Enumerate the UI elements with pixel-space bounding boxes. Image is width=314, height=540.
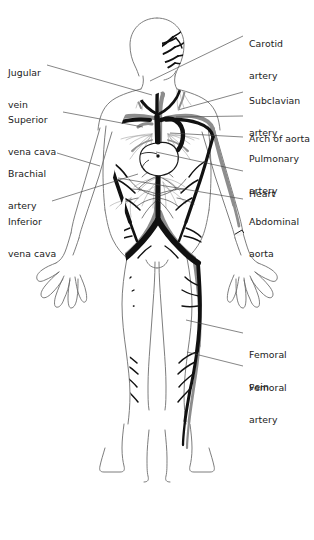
- label-line-2: vena cava: [8, 249, 56, 260]
- veins-group: [103, 27, 213, 445]
- label-line-1: Pulmonary: [249, 154, 299, 165]
- leader-lines: [47, 36, 243, 366]
- label-femoral-artery: Femoral artery: [249, 362, 287, 436]
- label-line-2: aorta: [249, 249, 299, 260]
- body-outline: [37, 18, 278, 482]
- label-abdominal-aorta: Abdominal aorta: [249, 196, 299, 270]
- heart-shape: [140, 142, 179, 175]
- wrist-bands: [68, 230, 246, 243]
- label-line-2: artery: [249, 415, 287, 426]
- label-line-1: Femoral: [249, 350, 287, 361]
- label-line-1: Brachial: [8, 169, 46, 180]
- label-inferior-vena-cava: Inferior vena cava: [8, 196, 56, 270]
- diagram-canvas: Jugular vein Superior vena cava Brachial…: [0, 0, 314, 540]
- label-line-1: Jugular: [8, 68, 41, 79]
- label-line-1: Superior: [8, 115, 56, 126]
- label-line-1: Carotid: [249, 39, 283, 50]
- label-line-1: Inferior: [8, 217, 56, 228]
- label-line-1: Abdominal: [249, 217, 299, 228]
- label-line-1: Femoral: [249, 383, 287, 394]
- label-line-1: Subclavian: [249, 96, 300, 107]
